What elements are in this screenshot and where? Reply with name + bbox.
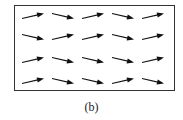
arrow-icon [112,14,134,20]
arrow-icon [82,13,104,19]
arrow-icon [22,78,44,84]
arrow-icon [142,79,164,85]
arrow-icon [22,35,44,41]
arrow-icon [112,35,134,41]
arrow-icon [52,79,74,85]
arrow-icon [142,57,164,63]
arrow-icon [82,34,104,40]
arrow-field [0,0,183,100]
arrow-icon [142,13,164,19]
arrow-icon [52,58,74,64]
arrow-icon [112,78,134,84]
arrow-icon [22,13,44,19]
arrow-icon [82,79,104,85]
arrow-icon [112,58,134,64]
arrow-icon [52,14,74,20]
arrow-icon [22,57,44,63]
arrow-icon [142,34,164,40]
arrow-icon [52,34,74,40]
arrow-icon [82,58,104,64]
figure-caption: (b) [0,100,183,115]
